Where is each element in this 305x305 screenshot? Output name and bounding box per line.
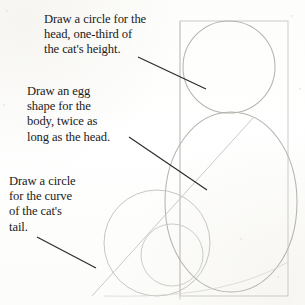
paper-speck bbox=[6, 10, 8, 12]
inner-construction-circle bbox=[141, 224, 203, 286]
leader-line-body bbox=[129, 137, 207, 190]
paper-speck bbox=[196, 190, 197, 191]
paper-speck bbox=[299, 88, 301, 90]
paper-speck bbox=[240, 238, 242, 240]
paper-speck bbox=[150, 193, 151, 194]
paper-speck bbox=[277, 276, 279, 278]
caption-body-instruction: Draw an egg shape for the body, twice as… bbox=[27, 84, 172, 145]
caption-head-instruction: Draw a circle for the head, one-third of… bbox=[44, 12, 214, 58]
leader-line-tail bbox=[37, 237, 96, 268]
body-egg bbox=[165, 112, 297, 292]
caption-tail-instruction: Draw a circle for the curve of the cat's… bbox=[9, 174, 134, 235]
frame-rectangle bbox=[180, 21, 288, 296]
drawing-page: Draw a circle for the head, one-third of… bbox=[0, 0, 305, 305]
paper-speck bbox=[3, 104, 5, 106]
paper-speck bbox=[291, 15, 293, 17]
